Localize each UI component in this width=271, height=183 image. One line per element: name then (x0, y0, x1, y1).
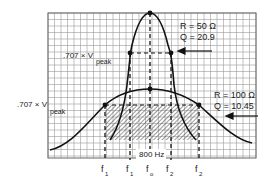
bandwidth-label: 800 Hz (139, 150, 164, 159)
narrow-peak-point (148, 11, 153, 16)
level-label-bottom-sub: peak (50, 108, 66, 116)
svg-text:f: f (101, 164, 104, 174)
wide-f2-point (197, 103, 202, 108)
narrow-r-label: R = 50 Ω (180, 21, 216, 31)
svg-text:f: f (195, 164, 198, 174)
svg-text:f: f (126, 164, 129, 174)
svg-text:f: f (166, 164, 169, 174)
wide-f1-point (103, 103, 108, 108)
frequency-labels: f 1 f 1 f o f 2 f 2 (101, 164, 203, 177)
narrow-f1-point (128, 51, 133, 56)
level-label-top-sub: peak (96, 58, 112, 66)
narrow-q-label: Q = 20.9 (180, 32, 215, 42)
svg-text:2: 2 (170, 171, 174, 177)
svg-text:f: f (146, 164, 149, 174)
svg-text:1: 1 (105, 171, 109, 177)
svg-text:1: 1 (130, 171, 134, 177)
narrow-f2-point (169, 51, 174, 56)
wide-q-label: Q = 10.45 (214, 101, 254, 111)
resonance-diagram: R = 50 Ω Q = 20.9 R = 100 Ω Q = 10.45 .7… (0, 0, 271, 183)
level-label-top: .707 × V (63, 51, 94, 60)
wide-r-label: R = 100 Ω (214, 90, 255, 100)
svg-text:o: o (150, 171, 154, 177)
wide-peak-point (148, 87, 153, 92)
svg-text:2: 2 (199, 171, 203, 177)
level-label-bottom: .707 × V (17, 100, 48, 109)
